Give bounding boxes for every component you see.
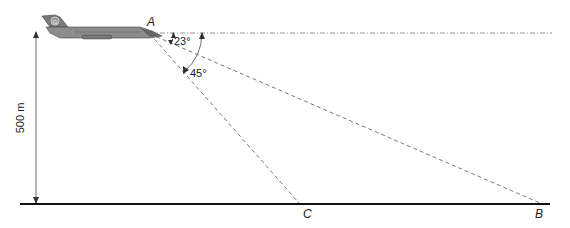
point-b-label: B: [535, 207, 543, 221]
sight-line-to-c: [150, 34, 299, 203]
tail-logo: G: [53, 19, 58, 25]
aircraft: G: [42, 15, 162, 39]
height-label: 500 m: [14, 103, 26, 134]
point-c-label: C: [303, 207, 312, 221]
point-a-label: A: [146, 15, 155, 29]
height-arrow: [33, 31, 39, 204]
diagram-canvas: 500 m 23° 45° G A C B: [0, 0, 570, 228]
angle-45-label: 45°: [190, 67, 207, 79]
sight-line-to-b: [150, 34, 540, 203]
angle-23-label: 23°: [174, 35, 191, 47]
